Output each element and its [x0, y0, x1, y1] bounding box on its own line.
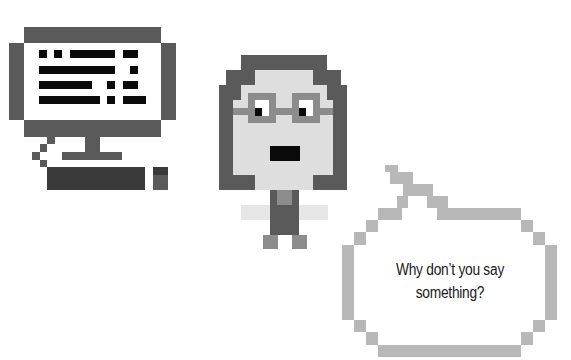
left-foot [263, 235, 278, 249]
monitor-right-bezel [161, 43, 176, 120]
right-foot [292, 235, 307, 249]
keyboard [47, 167, 145, 190]
collar [277, 190, 292, 205]
monitor-left-bezel [9, 43, 24, 120]
speech-line-2: something? [378, 281, 522, 304]
mouth [270, 146, 300, 161]
illustration: Why don’t you say something? [0, 0, 571, 360]
monitor-stand-neck [85, 137, 100, 152]
left-eye [255, 108, 262, 116]
speech-bubble-text: Why don’t you say something? [378, 258, 522, 304]
right-eye [299, 108, 306, 116]
mouse-top [153, 167, 168, 175]
monitor-bottom-bezel [24, 120, 161, 137]
mouse-bottom [153, 175, 168, 190]
speech-line-1: Why don’t you say [378, 258, 522, 281]
face [233, 70, 333, 190]
monitor-top-bezel [24, 27, 161, 43]
monitor-stand-base [62, 152, 122, 160]
